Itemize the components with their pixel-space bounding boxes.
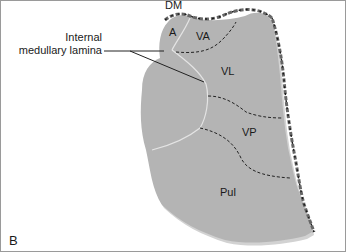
callout-line1: Internal <box>19 31 102 44</box>
panel-label: B <box>9 233 18 248</box>
region-label-VP: VP <box>242 127 257 138</box>
region-label-VA: VA <box>196 31 210 42</box>
region-label-DM: DM <box>165 0 182 11</box>
region-label-A: A <box>169 27 176 38</box>
region-label-Pul: Pul <box>220 187 236 198</box>
callout-line2: medullary lamina <box>19 44 102 57</box>
callout-label: Internal medullary lamina <box>19 31 102 57</box>
region-label-VL: VL <box>221 66 234 77</box>
